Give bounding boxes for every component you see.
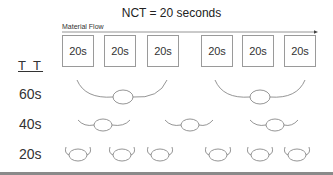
grouping-curve — [215, 80, 250, 97]
worker-group-20s — [147, 147, 172, 161]
worker-group-40s — [78, 119, 130, 131]
grouping-curve — [199, 120, 213, 125]
grouping-curve — [77, 80, 113, 97]
worker-group-60s — [77, 80, 167, 104]
grouping-curve — [109, 147, 113, 155]
operator-ellipse — [113, 90, 133, 104]
operator-ellipse — [69, 149, 87, 161]
row-label-40s: 40s — [19, 116, 42, 132]
grouping-curve — [306, 147, 310, 155]
worker-group-20s — [205, 147, 230, 161]
operator-ellipse — [94, 119, 112, 131]
operator-ellipse — [181, 119, 199, 131]
grouping-curve — [284, 120, 298, 125]
operator-ellipse — [151, 149, 169, 161]
operator-ellipse — [251, 149, 269, 161]
grouping-curve — [227, 147, 231, 155]
grouping-curve — [133, 80, 167, 97]
grouping-curve — [147, 147, 151, 155]
operator-ellipse — [288, 149, 306, 161]
grouping-curve — [165, 120, 181, 125]
grouping-curve — [205, 147, 209, 155]
row-label-20s: 20s — [19, 146, 42, 162]
station-box: 20s — [62, 35, 94, 67]
bottom-divider — [0, 172, 333, 175]
row-label-60s: 60s — [19, 86, 42, 102]
worker-group-40s — [250, 119, 298, 131]
worker-group-20s — [284, 147, 309, 161]
station-box: 20s — [201, 35, 233, 67]
worker-group-40s — [165, 119, 213, 131]
operator-ellipse — [209, 149, 227, 161]
grouping-curve — [284, 147, 288, 155]
arrow-right-icon — [62, 30, 318, 33]
takt-time-header: T T — [18, 58, 43, 73]
worker-group-20s — [109, 147, 134, 161]
worker-group-60s — [215, 80, 305, 104]
station-box: 20s — [284, 35, 316, 67]
grouping-curve — [250, 120, 266, 125]
operator-ellipse — [266, 119, 284, 131]
grouping-curve — [131, 147, 135, 155]
diagram-canvas — [0, 0, 333, 175]
grouping-curve — [87, 147, 91, 155]
station-box: 20s — [147, 35, 179, 67]
station-box: 20s — [242, 35, 274, 67]
grouping-curve — [65, 147, 69, 155]
operator-ellipse — [250, 90, 270, 104]
grouping-curve — [269, 147, 273, 155]
station-box: 20s — [104, 35, 136, 67]
grouping-curve — [169, 147, 173, 155]
operator-ellipse — [113, 149, 131, 161]
grouping-curve — [247, 147, 251, 155]
grouping-curve — [112, 120, 130, 125]
grouping-curve — [78, 120, 94, 125]
worker-groupings — [65, 80, 309, 161]
worker-group-20s — [65, 147, 90, 161]
worker-group-20s — [247, 147, 272, 161]
grouping-curve — [270, 80, 305, 97]
